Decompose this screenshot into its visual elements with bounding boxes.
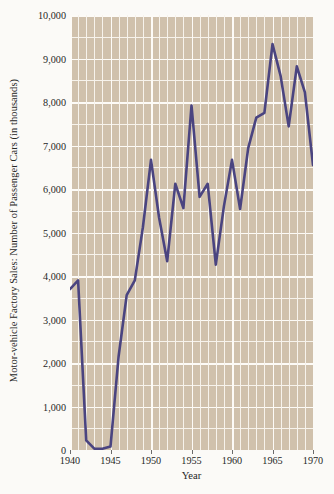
plot-area bbox=[70, 15, 313, 450]
x-tick-label: 1950 bbox=[141, 455, 161, 466]
x-tick-mark bbox=[151, 450, 152, 454]
y-axis-title-text: Motor-vehicle Factory Sales: Number of P… bbox=[9, 78, 20, 381]
chart-figure: Motor-vehicle Factory Sales: Number of P… bbox=[0, 0, 334, 494]
data-series-line bbox=[70, 15, 313, 450]
y-axis-title: Motor-vehicle Factory Sales: Number of P… bbox=[0, 0, 28, 460]
y-tick-label: 2,000 bbox=[43, 358, 66, 369]
x-tick-label: 1970 bbox=[303, 455, 323, 466]
x-tick-label: 1960 bbox=[222, 455, 242, 466]
x-axis-tick-labels: 1940194519501955196019651970 bbox=[0, 450, 334, 470]
y-axis-tick-labels: 01,0002,0003,0004,0005,0006,0007,0008,00… bbox=[28, 0, 70, 494]
x-tick-mark bbox=[232, 450, 233, 454]
x-axis-title: Year bbox=[70, 470, 313, 481]
x-tick-mark bbox=[111, 450, 112, 454]
x-tick-mark bbox=[192, 450, 193, 454]
y-tick-label: 1,000 bbox=[43, 401, 66, 412]
passenger-cars-line bbox=[70, 44, 313, 449]
y-tick-label: 10,000 bbox=[38, 10, 66, 21]
x-tick-label: 1965 bbox=[262, 455, 282, 466]
y-tick-label: 9,000 bbox=[43, 53, 66, 64]
y-tick-label: 5,000 bbox=[43, 227, 66, 238]
x-tick-mark bbox=[313, 450, 314, 454]
x-tick-label: 1940 bbox=[60, 455, 80, 466]
y-tick-label: 7,000 bbox=[43, 140, 66, 151]
y-tick-label: 6,000 bbox=[43, 184, 66, 195]
x-tick-mark bbox=[273, 450, 274, 454]
x-tick-label: 1945 bbox=[100, 455, 120, 466]
x-tick-label: 1955 bbox=[181, 455, 201, 466]
y-tick-label: 3,000 bbox=[43, 314, 66, 325]
x-tick-mark bbox=[70, 450, 71, 454]
y-tick-label: 8,000 bbox=[43, 97, 66, 108]
y-tick-label: 4,000 bbox=[43, 271, 66, 282]
